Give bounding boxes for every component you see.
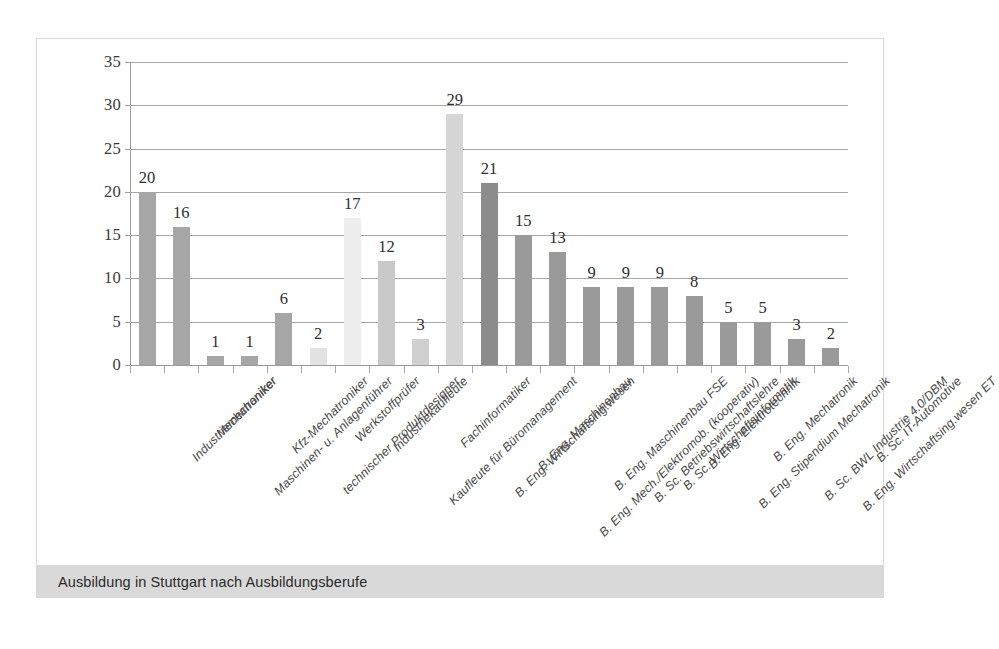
- y-axis: 05101520253035: [130, 62, 131, 366]
- x-tick-mark: [472, 366, 473, 373]
- y-tick-label: 5: [113, 312, 121, 332]
- y-tick-label: 0: [113, 355, 121, 375]
- x-tick-mark: [130, 366, 131, 373]
- x-tick-mark: [506, 366, 507, 373]
- bar-value-label: 12: [378, 237, 395, 257]
- bar-value-label: 2: [314, 324, 322, 344]
- bar: 1: [207, 356, 224, 365]
- x-tick-mark: [267, 366, 268, 373]
- bar: 6: [275, 313, 292, 365]
- x-tick-mark: [848, 366, 849, 373]
- x-tick-mark: [198, 366, 199, 373]
- y-tick-label: 10: [104, 268, 121, 288]
- bar: 20: [139, 192, 156, 365]
- bar-value-label: 3: [793, 315, 801, 335]
- y-tick-mark: [125, 235, 130, 236]
- bar: 13: [549, 252, 566, 365]
- bar: 1: [241, 356, 258, 365]
- y-tick-mark: [125, 105, 130, 106]
- caption-band: Ausbildung in Stuttgart nach Ausbildungs…: [37, 565, 883, 598]
- bar: 21: [481, 183, 498, 365]
- bar-value-label: 29: [447, 90, 464, 110]
- bar-value-label: 1: [246, 332, 254, 352]
- y-tick-mark: [125, 278, 130, 279]
- x-tick-mark: [814, 366, 815, 373]
- x-tick-mark: [574, 366, 575, 373]
- bar: 12: [378, 261, 395, 365]
- y-tick-label: 25: [104, 139, 121, 159]
- bar: 29: [446, 114, 463, 365]
- gridline: [130, 149, 848, 150]
- bar-value-label: 9: [587, 263, 595, 283]
- bar: 3: [412, 339, 429, 365]
- bar-value-label: 3: [416, 315, 424, 335]
- gridline: [130, 105, 848, 106]
- x-tick-mark: [780, 366, 781, 373]
- bar: 2: [822, 348, 839, 365]
- bar: 8: [686, 296, 703, 365]
- y-tick-mark: [125, 149, 130, 150]
- bar-value-label: 5: [724, 298, 732, 318]
- y-tick-label: 15: [104, 225, 121, 245]
- bar: 5: [754, 322, 771, 365]
- bar-value-label: 15: [515, 211, 532, 231]
- bar: 9: [651, 287, 668, 365]
- y-tick-mark: [125, 192, 130, 193]
- bar-value-label: 6: [280, 289, 288, 309]
- y-tick-mark: [125, 322, 130, 323]
- bar-value-label: 20: [139, 168, 156, 188]
- y-tick-label: 30: [104, 95, 121, 115]
- x-tick-mark: [335, 366, 336, 373]
- plot-area: 20161162171232921151399985532: [130, 62, 848, 365]
- bar: 9: [583, 287, 600, 365]
- x-tick-mark: [233, 366, 234, 373]
- bar-value-label: 21: [481, 159, 498, 179]
- bar: 17: [344, 218, 361, 365]
- bar: 16: [173, 227, 190, 366]
- bar-value-label: 2: [827, 324, 835, 344]
- x-tick-mark: [404, 366, 405, 373]
- bar-value-label: 9: [622, 263, 630, 283]
- bar: 15: [515, 235, 532, 365]
- x-tick-mark: [164, 366, 165, 373]
- x-tick-mark: [540, 366, 541, 373]
- y-tick-label: 35: [104, 52, 121, 72]
- bar: 2: [310, 348, 327, 365]
- x-tick-mark: [643, 366, 644, 373]
- bar-value-label: 9: [656, 263, 664, 283]
- x-tick-mark: [301, 366, 302, 373]
- bar-value-label: 5: [758, 298, 766, 318]
- x-tick-mark: [677, 366, 678, 373]
- y-tick-mark: [125, 62, 130, 63]
- bar: 5: [720, 322, 737, 365]
- bar: 3: [788, 339, 805, 365]
- bar-value-label: 16: [173, 203, 190, 223]
- bar: 9: [617, 287, 634, 365]
- x-tick-mark: [745, 366, 746, 373]
- x-axis-ticks: [130, 366, 848, 374]
- bar-value-label: 13: [549, 228, 566, 248]
- bar-value-label: 17: [344, 194, 361, 214]
- x-tick-mark: [711, 366, 712, 373]
- x-tick-mark: [609, 366, 610, 373]
- x-tick-mark: [438, 366, 439, 373]
- bar-value-label: 8: [690, 272, 698, 292]
- gridline: [130, 62, 848, 63]
- caption-text: Ausbildung in Stuttgart nach Ausbildungs…: [37, 574, 367, 590]
- x-tick-mark: [369, 366, 370, 373]
- y-tick-label: 20: [104, 182, 121, 202]
- bar-value-label: 1: [211, 332, 219, 352]
